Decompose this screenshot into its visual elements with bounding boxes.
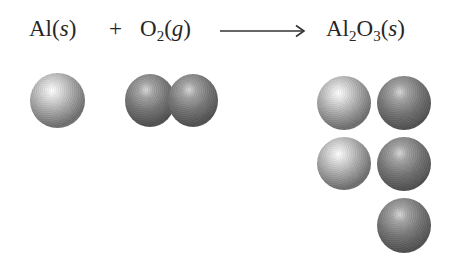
o-close-paren: ) — [183, 16, 191, 41]
aluminum-atom — [30, 73, 85, 128]
prod-al-symbol: Al — [326, 16, 349, 41]
reactant-al-label: Al(s) — [29, 14, 76, 44]
prod-state: s — [388, 16, 397, 41]
product-al2o3-label: Al2O3(s) — [326, 14, 405, 44]
al-state: s — [60, 16, 69, 41]
product-aluminum-atom — [317, 76, 371, 130]
o-subscript: 2 — [157, 28, 165, 44]
product-aluminum-atom — [317, 137, 371, 190]
product-oxygen-atom — [377, 137, 431, 191]
o-symbol: O — [140, 16, 157, 41]
al-symbol: Al( — [29, 16, 60, 41]
prod-o-subscript: 3 — [373, 28, 381, 44]
o-state: g — [172, 16, 184, 41]
reaction-arrow-icon — [219, 23, 307, 39]
plus-sign: + — [109, 14, 122, 44]
prod-close-paren: ) — [397, 16, 405, 41]
prod-al-subscript: 2 — [349, 28, 357, 44]
product-oxygen-atom — [377, 76, 431, 130]
o-open-paren: ( — [164, 16, 172, 41]
al-close-paren: ) — [69, 16, 77, 41]
oxygen-atom — [168, 74, 218, 127]
reactant-o2-label: O2(g) — [140, 14, 191, 44]
prod-o-symbol: O — [357, 16, 374, 41]
product-oxygen-atom — [377, 198, 431, 253]
